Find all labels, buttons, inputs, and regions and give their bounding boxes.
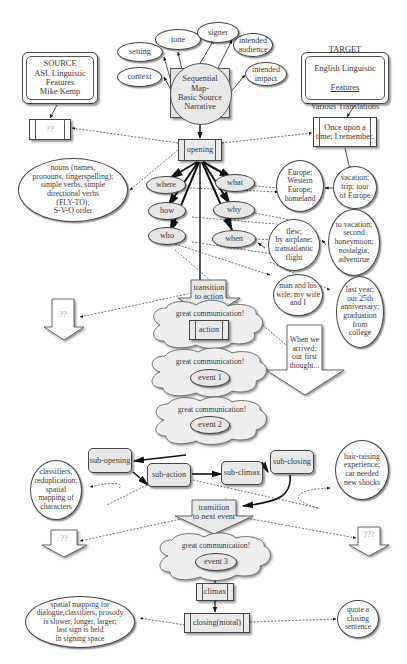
answer-where: Europe; Western Europe; homeland bbox=[276, 160, 324, 212]
what-label: what bbox=[227, 178, 243, 187]
narrative-map-diagram: SOURCE ASL Linguistic Features Mike Kemp… bbox=[0, 0, 407, 664]
sub-climax-label: sub-climax bbox=[224, 468, 260, 477]
who-label: who bbox=[160, 231, 174, 240]
source-header-text: SOURCE ASL Linguistic Features Mike Kemp bbox=[34, 59, 86, 97]
asl-closing-features: spatial mapping for dialogue,classifiers… bbox=[25, 596, 135, 648]
asl-closing-features-text: spatial mapping for dialogue,classifiers… bbox=[37, 601, 124, 644]
answer-what-text: vacation; trip; tour of Europe bbox=[340, 174, 371, 200]
event2-node: event 2 bbox=[190, 416, 230, 434]
transition-next-event-label: transition to next event bbox=[190, 503, 238, 521]
central-map-text: Sequential Map- Basic Source Narrative bbox=[178, 74, 222, 112]
context-node-setting: setting bbox=[117, 42, 163, 62]
asl-opening-features-text: nouns (names, pronouns, fingerspelling);… bbox=[33, 164, 114, 216]
sub-opening-label: sub-opening bbox=[90, 456, 130, 465]
context-node-tone: tone bbox=[155, 29, 201, 50]
source-transition-label: ?? bbox=[52, 310, 74, 319]
event3-node: event 3 bbox=[195, 553, 237, 571]
sub-action-node: sub-action bbox=[147, 463, 191, 487]
answer-who-text: man and his wife; my wife and I bbox=[276, 282, 320, 308]
target-opening-text: Once upon a time; I remember, bbox=[316, 123, 375, 141]
asl-opening-features: nouns (names, pronouns, fingerspelling);… bbox=[18, 158, 128, 222]
event2-label: event 2 bbox=[198, 420, 222, 429]
cloud-action-label: great communication! bbox=[160, 310, 260, 319]
source-opening-text: ?? bbox=[46, 125, 53, 134]
opening-label: opening bbox=[187, 145, 213, 154]
source-header-box: SOURCE ASL Linguistic Features Mike Kemp bbox=[22, 52, 98, 104]
sub-climax-node: sub-climax bbox=[221, 461, 263, 485]
target-line-features: Features bbox=[311, 83, 380, 92]
setting-label: setting bbox=[129, 47, 151, 56]
asl-event-features: classifiers, reduplication; spatial mapp… bbox=[30, 460, 82, 520]
sub-action-label: sub-action bbox=[152, 470, 186, 479]
target-line-translations: Various Translations bbox=[311, 102, 380, 111]
source-opening-box: ?? bbox=[29, 119, 71, 140]
cloud-event2-label: great communication! bbox=[160, 406, 264, 415]
target-header-box: TARGET English Linguistic Features Vario… bbox=[301, 52, 389, 104]
answer-how: flew; by airplane; transatlantic flight bbox=[268, 219, 320, 271]
context-node-context: context bbox=[117, 67, 162, 87]
tone-label: tone bbox=[171, 35, 185, 44]
answer-where-text: Europe; Western Europe; homeland bbox=[285, 169, 316, 204]
event1-node: event 1 bbox=[190, 369, 230, 387]
english-event-features: hair-raising experience; car needed new … bbox=[335, 440, 389, 500]
answer-why-text: to vacation; second honeymoon; nostalgia… bbox=[335, 221, 374, 265]
wh-node-how: how bbox=[148, 202, 186, 220]
climax-label: climax bbox=[204, 587, 226, 596]
asl-event-features-text: classifiers, reduplication; spatial mapp… bbox=[34, 468, 77, 512]
source-next-label: ?? bbox=[51, 534, 77, 543]
opening-node: opening bbox=[178, 139, 222, 161]
intended-impact-label: intended impact bbox=[252, 65, 280, 83]
event1-label: event 1 bbox=[198, 373, 222, 382]
closing-node: closing(moral) bbox=[184, 613, 250, 633]
context-label: context bbox=[127, 72, 151, 81]
cloud-event3-label: great communication! bbox=[164, 542, 268, 551]
context-node-signer: signer bbox=[197, 22, 239, 43]
wh-node-why: why bbox=[213, 201, 255, 219]
where-label: where bbox=[156, 180, 176, 189]
answer-what: vacation; trip; tour of Europe bbox=[333, 166, 377, 209]
english-closing-features-text: quote a closing sentence bbox=[345, 606, 371, 632]
target-next-label: ??? bbox=[358, 530, 380, 539]
answer-why: to vacation; second honeymoon; nostalgia… bbox=[328, 209, 380, 276]
answer-how-text: flew; by airplane; transatlantic flight bbox=[275, 228, 313, 263]
cloud-event1-label: great communication! bbox=[158, 358, 262, 367]
target-line-english: English Linguistic bbox=[311, 64, 380, 73]
english-closing-features: quote a closing sentence bbox=[337, 600, 379, 638]
english-event-features-text: hair-raising experience; car needed new … bbox=[344, 453, 380, 488]
wh-node-what: what bbox=[215, 174, 255, 192]
event3-label: event 3 bbox=[204, 557, 228, 566]
closing-label: closing(moral) bbox=[193, 618, 241, 627]
intended-audience-label: intended audience bbox=[238, 36, 267, 54]
answer-when: last year; our 25th anniversary; graduat… bbox=[336, 276, 384, 348]
wh-node-who: who bbox=[148, 227, 186, 245]
answer-when-text: last year; our 25th anniversary; graduat… bbox=[341, 286, 380, 338]
action-node: action bbox=[189, 320, 229, 340]
context-node-intended-audience: intended audience bbox=[233, 33, 273, 57]
action-label: action bbox=[199, 325, 219, 334]
sub-closing-label: sub-closing bbox=[273, 457, 311, 466]
sub-closing-node: sub-closing bbox=[270, 450, 314, 474]
answer-who: man and his wife; my wife and I bbox=[273, 274, 323, 316]
climax-node: climax bbox=[196, 583, 234, 601]
target-opening-box: Once upon a time; I remember, bbox=[313, 117, 377, 147]
how-label: how bbox=[160, 206, 174, 215]
transition-to-action-label: transition to action bbox=[188, 283, 230, 301]
sub-opening-node: sub-opening bbox=[88, 448, 132, 473]
wh-node-where: where bbox=[146, 176, 186, 194]
wh-node-when: when bbox=[212, 230, 256, 248]
signer-label: signer bbox=[208, 28, 228, 37]
when-label: when bbox=[225, 234, 243, 243]
why-label: why bbox=[227, 205, 241, 214]
central-map-node: Sequential Map- Basic Source Narrative bbox=[170, 68, 230, 118]
target-transition-label: When we arrived; our first thought... bbox=[287, 336, 322, 370]
context-node-intended-impact: intended impact bbox=[245, 62, 287, 86]
target-title: TARGET bbox=[311, 45, 380, 54]
